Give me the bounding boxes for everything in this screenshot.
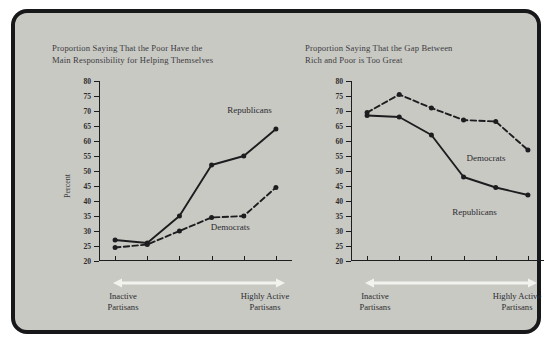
chart-title-left: Proportion Saying That the Poor Have the… <box>52 43 252 66</box>
data-point <box>177 229 182 234</box>
data-point <box>113 245 118 250</box>
y-tick-label: 75 <box>335 92 343 101</box>
data-point <box>493 185 498 190</box>
y-tick-label: 40 <box>83 197 91 206</box>
series-annotation: Democrats <box>211 222 250 232</box>
data-point <box>397 115 402 120</box>
y-tick <box>94 261 99 262</box>
y-tick-label: 30 <box>335 227 343 236</box>
data-point <box>429 106 434 111</box>
y-tick-label: 80 <box>335 77 343 86</box>
data-point <box>525 193 530 198</box>
x-axis-range-arrow-left <box>113 275 285 287</box>
data-point <box>525 148 530 153</box>
y-tick-label: 50 <box>83 167 91 176</box>
data-point <box>145 242 150 247</box>
y-tick-label: 65 <box>83 122 91 131</box>
y-tick-label: 70 <box>335 107 343 116</box>
x-axis-start-label-right: Inactive Partisans <box>337 291 413 313</box>
series-line <box>115 129 276 243</box>
y-tick-label: 60 <box>335 137 343 146</box>
y-tick-label: 70 <box>83 107 91 116</box>
y-tick-label: 45 <box>335 182 343 191</box>
y-tick-label: 20 <box>335 257 343 266</box>
data-point <box>429 133 434 138</box>
data-point <box>493 119 498 124</box>
y-tick-label: 45 <box>83 182 91 191</box>
x-axis-range-arrow-right <box>365 275 537 287</box>
data-point <box>209 215 214 220</box>
y-tick-label: 30 <box>83 227 91 236</box>
y-tick-label: 55 <box>83 152 91 161</box>
series-annotation: Republicans <box>227 105 272 115</box>
data-point <box>397 92 402 97</box>
figure-frame: Proportion Saying That the Poor Have the… <box>11 9 541 334</box>
chart-title-right: Proportion Saying That the Gap Between R… <box>305 43 510 66</box>
x-axis-start-label-left: Inactive Partisans <box>85 291 161 313</box>
data-point <box>461 118 466 123</box>
y-tick-label: 25 <box>83 242 91 251</box>
series-line <box>367 95 528 151</box>
y-tick-label: 80 <box>83 77 91 86</box>
data-point <box>209 163 214 168</box>
data-point <box>273 127 278 132</box>
y-tick <box>346 261 351 262</box>
data-point <box>365 113 370 118</box>
y-tick-label: 60 <box>83 137 91 146</box>
y-tick-label: 25 <box>335 242 343 251</box>
y-tick-label: 20 <box>83 257 91 266</box>
series-annotation: Republicans <box>452 207 497 217</box>
y-tick-label: 50 <box>335 167 343 176</box>
y-tick-label: 55 <box>335 152 343 161</box>
chart-panel-left: Proportion Saying That the Poor Have the… <box>25 13 290 330</box>
x-axis-end-label-right: Highly Active Partisans <box>475 291 552 313</box>
y-tick-label: 35 <box>83 212 91 221</box>
y-tick-label: 35 <box>335 212 343 221</box>
data-point <box>113 238 118 243</box>
series-annotation: Democrats <box>467 153 506 163</box>
data-point <box>177 214 182 219</box>
y-axis-label-left: Percent <box>63 174 72 198</box>
plot-area-right: 20253035404550556065707580 <box>351 81 544 261</box>
data-point <box>241 154 246 159</box>
y-tick-label: 65 <box>335 122 343 131</box>
data-point <box>273 185 278 190</box>
series-layer <box>351 81 544 261</box>
data-point <box>241 214 246 219</box>
series-line <box>115 188 276 248</box>
data-point <box>461 175 466 180</box>
chart-panel-right: Proportion Saying That the Gap Between R… <box>283 13 545 330</box>
y-tick-label: 40 <box>335 197 343 206</box>
y-tick-label: 75 <box>83 92 91 101</box>
